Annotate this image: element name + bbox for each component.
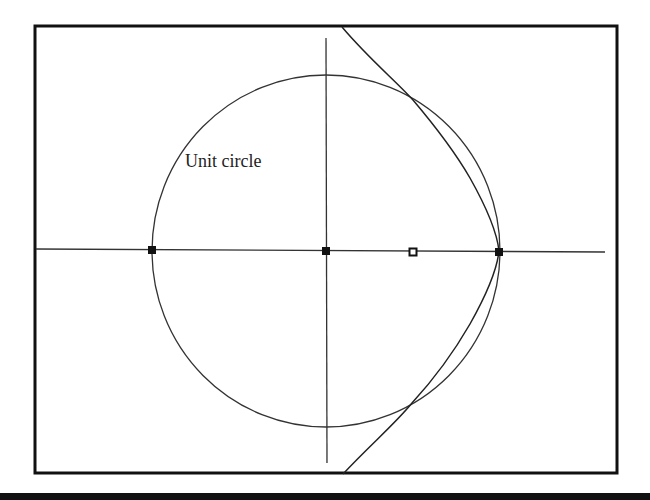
x-axis bbox=[36, 249, 605, 252]
point-one-half bbox=[410, 249, 417, 256]
point-minus-one bbox=[148, 246, 156, 254]
bottom-rule bbox=[0, 493, 650, 500]
unit-circle-label: Unit circle bbox=[185, 152, 261, 170]
point-one bbox=[495, 248, 503, 256]
unit-circle-diagram bbox=[0, 0, 650, 500]
point-origin bbox=[322, 247, 330, 255]
